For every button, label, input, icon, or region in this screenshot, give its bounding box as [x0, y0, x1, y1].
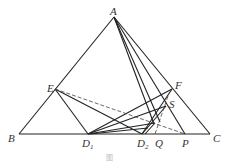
label-q: Q [155, 137, 163, 149]
figure-caption: 图 [106, 154, 113, 162]
line-e-d1 [55, 89, 88, 134]
label-a: A [109, 5, 117, 17]
line-a-q [114, 17, 160, 122]
line-a-d [114, 17, 154, 124]
label-f: F [174, 79, 182, 91]
label-e: E [46, 82, 54, 94]
label-b: B [8, 132, 15, 144]
label-c: C [213, 132, 221, 144]
geometry-diagram: A B C E F S D1 D2 Q P 图 [0, 0, 226, 162]
label-p: P [181, 137, 189, 149]
label-s: S [169, 98, 175, 110]
label-d1: D1 [81, 137, 93, 151]
line-a-p [114, 17, 185, 134]
side-ab [19, 17, 114, 134]
dashed-e-p [55, 89, 185, 134]
side-ac [114, 17, 210, 134]
label-d2: D2 [136, 137, 149, 151]
